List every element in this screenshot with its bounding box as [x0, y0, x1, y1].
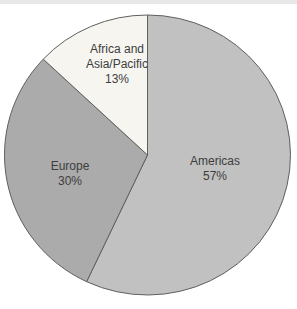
- pie-chart: [0, 0, 297, 309]
- pie-chart-figure: Americas 57% Europe 30% Africa and Asia/…: [0, 0, 297, 309]
